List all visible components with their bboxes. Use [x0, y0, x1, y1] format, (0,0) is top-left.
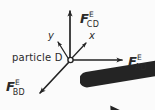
axis-label-y: y [48, 31, 54, 41]
vector-label-F-CD-subscript: CD [87, 20, 99, 29]
vector-label-F-AD: F EAD [128, 55, 154, 68]
particle-label: particle D [12, 53, 63, 63]
vector-label-F-CD: F ECD [80, 12, 106, 25]
vector-label-F-CD-superscript: E [89, 10, 94, 19]
vector-label-F-AD-superscript: E [137, 53, 142, 62]
free-body-diagram: particle D y x F ECD F EAD F [0, 0, 155, 110]
vector-label-F-BD-subscript: BD [13, 88, 25, 97]
vector-label-F-BD-superscript: E [15, 78, 20, 87]
origin-point-marker [68, 57, 73, 62]
vector-overbar-arrow-icon [6, 80, 155, 110]
vector-label-F-AD-subscript: AD [135, 63, 147, 72]
vector-label-F-BD: F EBD [6, 80, 32, 93]
